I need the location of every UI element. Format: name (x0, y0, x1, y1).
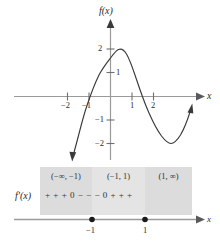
x-tick-label-2: 2 (151, 101, 155, 110)
y-tick-label-1: 1 (116, 68, 120, 77)
graph-canvas (0, 0, 220, 163)
number-line-canvas (0, 163, 220, 242)
function-graph-panel: f(x) x −2 −1 1 2 2 1 −1 −2 (0, 0, 220, 163)
number-line-label--1: −1 (86, 226, 95, 235)
sign-chart-panel: (−∞, −1) (−1, 1) (1, ∞) f′(x) + + + 0 − … (0, 163, 220, 242)
number-line-axis-label: x (207, 215, 211, 224)
critical-point-dot--1 (89, 217, 95, 223)
figure-root: f(x) x −2 −1 1 2 2 1 −1 −2 (−∞, −1) (−1,… (0, 0, 220, 242)
y-tick-label-2: 2 (98, 44, 102, 53)
y-tick-label--2: −2 (95, 139, 104, 148)
x-axis (14, 93, 205, 101)
y-tick-label--1: −1 (95, 115, 104, 124)
x-tick-label--2: −2 (61, 101, 70, 110)
x-tick-label--1: −1 (82, 101, 91, 110)
number-line-label-1: 1 (143, 226, 147, 235)
x-axis-label: x (207, 91, 211, 101)
critical-point-dot-1 (142, 217, 148, 223)
function-label: f(x) (99, 6, 113, 16)
x-tick-label-1: 1 (130, 101, 134, 110)
y-axis (107, 19, 115, 160)
